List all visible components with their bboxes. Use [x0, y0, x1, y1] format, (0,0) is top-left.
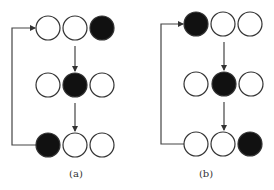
panel-a	[12, 16, 114, 157]
loop-back-arrow	[12, 28, 36, 145]
empty-circle	[36, 73, 60, 97]
loop-back-arrow	[161, 24, 184, 144]
empty-circle	[63, 133, 87, 157]
panel-label-b: (b)	[199, 168, 213, 179]
empty-circle	[238, 12, 262, 36]
filled-circle	[184, 12, 208, 36]
empty-circle	[239, 72, 263, 96]
circle-row-2	[36, 73, 114, 97]
filled-circle	[90, 16, 114, 40]
circle-row-2	[184, 72, 263, 96]
circle-row-3	[184, 132, 262, 156]
filled-circle	[212, 72, 236, 96]
circle-row-1	[184, 12, 262, 36]
empty-circle	[211, 12, 235, 36]
circle-row-3	[36, 133, 114, 157]
empty-circle	[36, 16, 60, 40]
filled-circle	[36, 133, 60, 157]
empty-circle	[184, 132, 208, 156]
empty-circle	[211, 132, 235, 156]
filled-circle	[238, 132, 262, 156]
filled-circle	[63, 73, 87, 97]
panel-label-a: (a)	[69, 168, 83, 179]
circle-row-1	[36, 16, 114, 40]
circle-sequence-diagram	[0, 0, 274, 190]
empty-circle	[63, 16, 87, 40]
panel-b	[161, 12, 263, 156]
empty-circle	[184, 72, 208, 96]
empty-circle	[90, 133, 114, 157]
empty-circle	[90, 73, 114, 97]
